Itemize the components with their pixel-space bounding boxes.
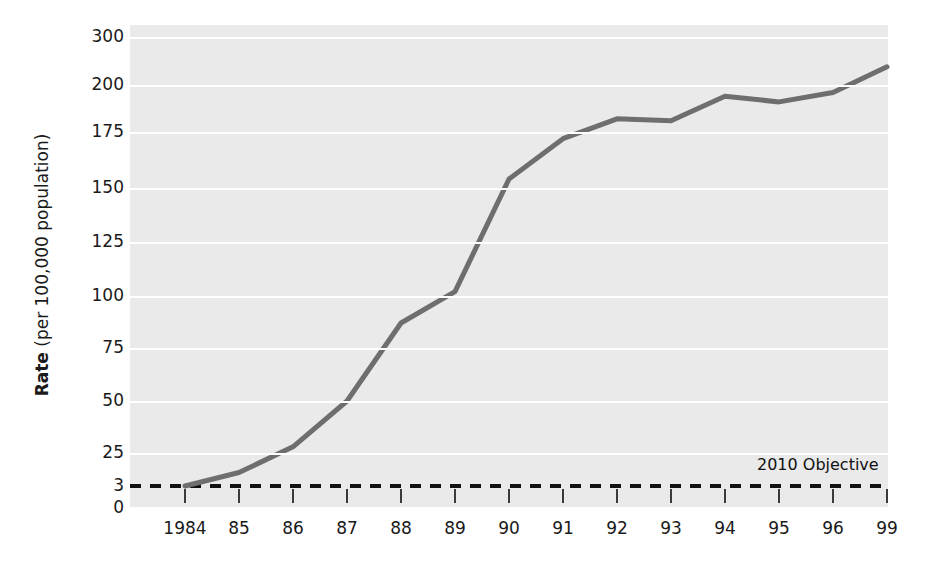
y-tick-175: 175: [64, 123, 124, 140]
plot-svg: [130, 25, 888, 507]
gridline-100: [130, 296, 888, 298]
x-tick-86: 86: [263, 520, 323, 537]
y-tick-300: 300: [64, 28, 124, 45]
x-tick-94: 94: [695, 520, 755, 537]
y-tick-25: 25: [64, 444, 124, 461]
y-tick-3: 3: [64, 477, 124, 494]
gridline-50: [130, 401, 888, 403]
y-axis-tick-labels: 30020017515012510075502530: [62, 0, 124, 575]
gridline-150: [130, 188, 888, 190]
x-tick-90: 90: [479, 520, 539, 537]
line-chart: Rate (per 100,000 population) 3002001751…: [0, 0, 939, 575]
x-tick-93: 93: [641, 520, 701, 537]
y-tick-100: 100: [64, 287, 124, 304]
data-series-line: [185, 67, 887, 486]
gridline-125: [130, 242, 888, 244]
gridline-200: [130, 85, 888, 87]
y-tick-125: 125: [64, 233, 124, 250]
x-tick-1984: 1984: [155, 520, 215, 537]
y-axis-title: Rate (per 100,000 population): [32, 105, 52, 425]
gridline-175: [130, 132, 888, 134]
y-axis-title-rest: (per 100,000 population): [32, 134, 52, 352]
y-tick-0: 0: [64, 499, 124, 516]
x-tick-89: 89: [425, 520, 485, 537]
y-axis-title-bold: Rate: [32, 352, 52, 396]
x-tick-85: 85: [209, 520, 269, 537]
x-tick-99: 99: [857, 520, 917, 537]
y-tick-150: 150: [64, 179, 124, 196]
x-tick-95: 95: [749, 520, 809, 537]
objective-annotation-label: 2010 Objective: [757, 455, 879, 474]
x-tick-96: 96: [803, 520, 863, 537]
plot-area: [130, 25, 888, 507]
y-tick-50: 50: [64, 392, 124, 409]
gridline-75: [130, 348, 888, 350]
x-tick-91: 91: [533, 520, 593, 537]
x-tick-92: 92: [587, 520, 647, 537]
gridline-300: [130, 37, 888, 39]
y-tick-200: 200: [64, 76, 124, 93]
y-tick-75: 75: [64, 339, 124, 356]
x-tick-88: 88: [371, 520, 431, 537]
x-tick-87: 87: [317, 520, 377, 537]
